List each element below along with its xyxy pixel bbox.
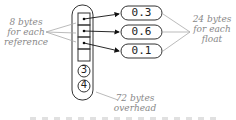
header-value-0: 3 bbox=[78, 64, 90, 75]
float-value-1: 0.6 bbox=[121, 25, 162, 38]
float-value-0: 0.3 bbox=[121, 6, 162, 19]
cropped-caption bbox=[0, 115, 236, 120]
ref-size-line-1: 8 bytes bbox=[4, 17, 48, 27]
float-size-line-3: float bbox=[190, 34, 234, 44]
ref-size-label: 8 bytes for each reference bbox=[4, 17, 48, 47]
ref-size-line-2: for each bbox=[4, 27, 48, 37]
cropped-caption-text bbox=[30, 117, 220, 120]
float-size-label: 24 bytes for each float bbox=[190, 14, 234, 44]
header-value-1: 4 bbox=[78, 79, 90, 90]
ref-cell-3 bbox=[78, 49, 90, 61]
float-size-line-2: for each bbox=[190, 24, 234, 34]
overhead-line-1: 72 bytes bbox=[110, 93, 160, 103]
float-size-line-1: 24 bytes bbox=[190, 14, 234, 24]
overhead-line-2: overhead bbox=[110, 103, 160, 113]
ref-size-line-3: reference bbox=[4, 37, 48, 47]
float-value-2: 0.1 bbox=[121, 44, 162, 57]
overhead-label: 72 bytes overhead bbox=[110, 93, 160, 113]
